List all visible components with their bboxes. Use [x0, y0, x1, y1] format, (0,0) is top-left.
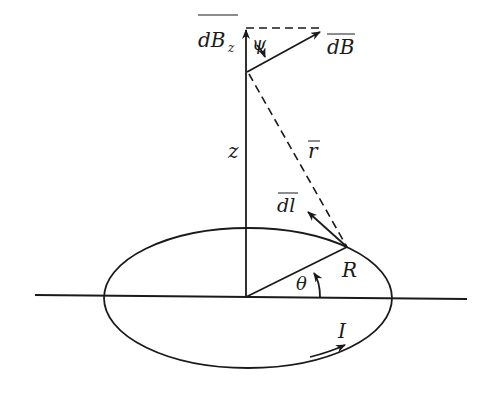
r-vector-dashed — [249, 74, 347, 247]
svg-text:dB: dB — [327, 35, 355, 59]
svg-text:z: z — [227, 41, 235, 55]
label-dl: dl — [277, 193, 298, 216]
svg-text:r: r — [308, 139, 319, 163]
dl-vector — [308, 212, 347, 247]
current-direction-arrow — [310, 345, 345, 357]
label-R: R — [341, 258, 357, 282]
label-z: z — [227, 139, 239, 163]
horizontal-axis — [35, 295, 467, 299]
label-I: I — [337, 319, 347, 343]
label-r: r — [308, 139, 320, 163]
current-loop-diagram: dB z dB ψ z r dl R θ I — [0, 0, 496, 393]
label-psi: ψ — [252, 33, 267, 54]
label-dBz: dB z — [198, 15, 238, 55]
label-theta: θ — [296, 273, 307, 294]
label-dB: dB — [327, 34, 355, 59]
theta-angle-arc — [314, 273, 320, 297]
svg-text:dl: dl — [277, 194, 295, 216]
svg-text:dB: dB — [198, 28, 226, 52]
